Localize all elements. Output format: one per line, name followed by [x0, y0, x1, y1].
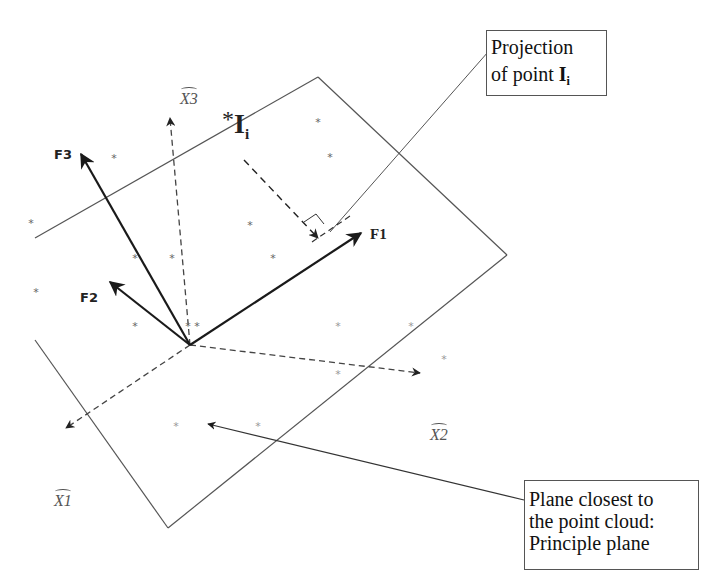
- plane-callout-line3: Principle plane: [529, 532, 698, 554]
- cloud-point: *: [335, 320, 341, 333]
- cloud-point: *: [194, 320, 200, 333]
- x3-hat-label: X3: [180, 90, 198, 108]
- axis-f3: [81, 154, 190, 345]
- projection-callout-point: I: [559, 63, 567, 85]
- projection-callout: Projection of point Ii: [486, 30, 607, 96]
- axis-x2-hat: [190, 345, 420, 373]
- f2-label: F2: [80, 290, 98, 305]
- x3-hat-text: X3: [180, 90, 198, 108]
- plane-callout-line2: the point cloud:: [529, 510, 698, 532]
- cloud-point: *: [132, 252, 138, 265]
- plane-callout-line1: Plane closest to: [529, 488, 698, 510]
- cloud-point: *: [408, 320, 414, 333]
- x1-hat-label: X1: [54, 492, 72, 510]
- right-angle-marker: [304, 214, 324, 224]
- point-i-label: *Ii: [222, 108, 249, 143]
- cloud-point: *: [132, 320, 138, 333]
- axis-f2: [110, 282, 190, 345]
- cloud-point: *: [270, 252, 276, 265]
- axis-x1-hat: [66, 345, 190, 428]
- x2-hat-label: X2: [430, 426, 448, 444]
- original-axes: [66, 118, 420, 428]
- projection-callout-prefix: of point: [491, 63, 559, 85]
- factor-axes: [81, 154, 361, 345]
- projection-callout-sub: i: [567, 74, 570, 88]
- projection-callout-line2: of point Ii: [491, 61, 606, 95]
- point-i-marker: *: [222, 106, 234, 132]
- f3-label: F3: [54, 147, 72, 162]
- cloud-point: *: [33, 286, 39, 299]
- projection-callout-line1: Projection: [491, 34, 606, 61]
- f1-label: F1: [370, 226, 387, 243]
- cloud-point: *: [173, 420, 179, 433]
- cloud-point: *: [111, 152, 117, 165]
- plane-edge-right: [318, 77, 507, 255]
- cloud-point: *: [247, 219, 253, 232]
- point-i-sub: i: [245, 126, 249, 142]
- point-cloud: * * * * * * * * * * * * * * * * * *: [28, 116, 447, 433]
- projection-on-plane-line: [312, 216, 350, 242]
- cloud-point: *: [185, 320, 191, 333]
- cloud-point: *: [441, 353, 447, 366]
- principal-plane: [35, 77, 507, 528]
- x1-hat-text: X1: [54, 492, 72, 510]
- cloud-point: *: [327, 151, 333, 164]
- plane-leader-arrow: [208, 424, 524, 500]
- plane-callout: Plane closest to the point cloud: Princi…: [524, 480, 699, 570]
- x2-hat-text: X2: [430, 426, 448, 444]
- plane-edge-top: [35, 77, 318, 238]
- cloud-point: *: [169, 252, 175, 265]
- cloud-point: *: [315, 116, 321, 129]
- plane-edge-bottom: [168, 255, 507, 528]
- cloud-point: *: [255, 420, 261, 433]
- cloud-point: *: [335, 368, 341, 381]
- projection-line: [244, 160, 318, 238]
- point-i-main: I: [234, 108, 245, 139]
- cloud-point: *: [28, 217, 34, 230]
- projection-leader-line: [330, 52, 488, 232]
